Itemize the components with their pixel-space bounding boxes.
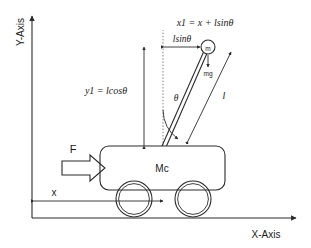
lsin-theta-label: lsinθ: [173, 34, 192, 44]
pendulum-rod: [162, 51, 208, 146]
bob-mass-label: m: [205, 45, 210, 52]
applied-force-arrow: [62, 155, 105, 181]
y1-equation-label: y1 = lcosθ: [84, 85, 127, 96]
y-axis-label: Y-Axis: [15, 18, 26, 46]
cart-wheel-left: [116, 181, 152, 217]
inverted-pendulum-diagram: Y-Axis X-Axis Mc F: [0, 0, 311, 248]
applied-force-label: F: [70, 143, 77, 155]
cart-wheel-right: [175, 181, 211, 217]
cart-mass-label: Mc: [155, 163, 168, 174]
x-axis-label: X-Axis: [252, 229, 281, 240]
x1-equation-label: x1 = x + lsinθ: [176, 17, 234, 28]
diagram-canvas: Y-Axis X-Axis Mc F: [0, 0, 311, 248]
pendulum-bob: m: [201, 40, 215, 54]
cart-position-label: x: [52, 187, 57, 198]
theta-label: θ: [174, 93, 179, 103]
rod-length-label: l: [223, 90, 226, 101]
weight-force-label: mg: [203, 70, 212, 78]
cart-group: Mc: [100, 146, 225, 217]
